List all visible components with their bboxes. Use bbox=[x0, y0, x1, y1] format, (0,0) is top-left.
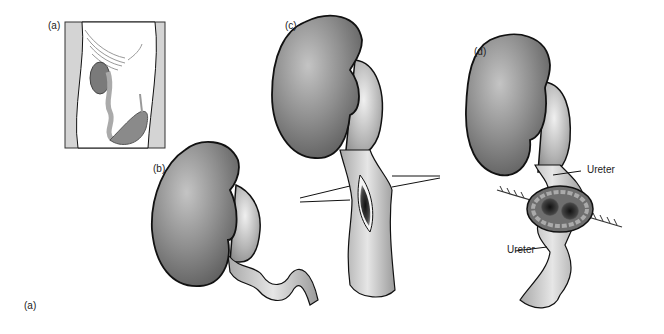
diagram-canvas bbox=[0, 0, 664, 334]
panel-a-inset bbox=[65, 22, 165, 148]
panel-b-kidney bbox=[152, 142, 318, 305]
caption-label: (a) bbox=[24, 300, 36, 311]
panel-b-label: (b) bbox=[153, 163, 165, 174]
ureter-label-lower: Ureter bbox=[507, 244, 535, 255]
ureter-label-upper: Ureter bbox=[587, 164, 615, 175]
panel-d-label: (d) bbox=[474, 46, 486, 57]
anastomosis-suture bbox=[497, 186, 622, 232]
panel-c-kidney bbox=[272, 16, 440, 297]
panel-a-label: (a) bbox=[48, 20, 60, 31]
panel-c-label: (c) bbox=[285, 20, 297, 31]
